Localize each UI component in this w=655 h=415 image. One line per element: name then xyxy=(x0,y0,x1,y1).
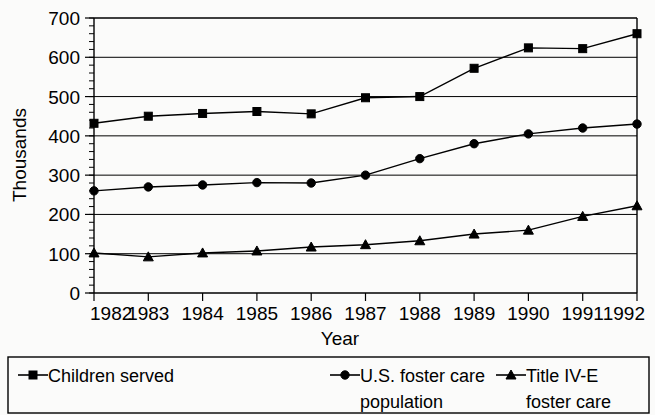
y-axis-tick-label: 600 xyxy=(48,47,80,68)
data-point xyxy=(633,30,641,38)
data-point xyxy=(144,112,152,120)
data-point xyxy=(144,183,152,191)
legend-label-line2: foster care xyxy=(526,392,611,412)
legend-marker-circle-icon xyxy=(341,371,349,379)
x-axis-tick-label: 1989 xyxy=(453,303,495,324)
x-axis-tick-label: 1984 xyxy=(181,303,224,324)
series-line xyxy=(94,34,637,124)
y-axis-tick-label: 100 xyxy=(48,244,80,265)
series-3 xyxy=(89,201,642,261)
data-point xyxy=(89,248,99,257)
x-axis-tick-label: 1990 xyxy=(507,303,549,324)
gridlines xyxy=(94,57,637,253)
y-axis-title: Thousands xyxy=(9,108,30,202)
x-axis-tick-label: 1982 xyxy=(90,303,132,324)
data-point xyxy=(198,181,206,189)
data-point xyxy=(470,140,478,148)
data-point xyxy=(199,109,207,117)
data-point xyxy=(633,120,641,128)
legend-label: Children served xyxy=(48,366,174,386)
y-axis-tick-label: 300 xyxy=(48,165,80,186)
y-axis-tick-label: 0 xyxy=(69,283,80,304)
series-2 xyxy=(90,120,641,195)
legend-entry-3[interactable]: Title IV-Efoster care xyxy=(496,366,611,412)
data-point xyxy=(307,110,315,118)
data-point xyxy=(90,119,98,127)
y-axis-ticks: 0100200300400500600700 xyxy=(48,8,94,304)
line-chart: Thousands 0100200300400500600700 1982198… xyxy=(0,0,655,415)
series-line xyxy=(94,206,637,257)
data-point xyxy=(470,64,478,72)
chart-figure: Thousands 0100200300400500600700 1982198… xyxy=(0,0,655,415)
legend-entry-2[interactable]: U.S. foster carepopulation xyxy=(330,366,485,412)
legend-entry-1[interactable]: Children served xyxy=(18,366,174,386)
x-axis-tick-label: 1988 xyxy=(399,303,441,324)
data-point xyxy=(524,130,532,138)
legend-marker-square-icon xyxy=(29,371,37,379)
x-axis-title: Year xyxy=(321,328,360,349)
x-axis-tick-label: 1985 xyxy=(236,303,278,324)
data-point xyxy=(524,44,532,52)
data-point xyxy=(579,45,587,53)
data-point xyxy=(416,93,424,101)
y-axis-tick-label: 500 xyxy=(48,87,80,108)
x-axis-tick-label: 1987 xyxy=(344,303,386,324)
y-axis-tick-label: 200 xyxy=(48,204,80,225)
x-axis-tick-label: 1992 xyxy=(603,303,645,324)
data-point xyxy=(416,154,424,162)
legend-entries: Children servedU.S. foster carepopulatio… xyxy=(18,366,611,412)
legend-label: U.S. foster care xyxy=(360,366,485,386)
data-point xyxy=(362,94,370,102)
series-line xyxy=(94,124,637,191)
x-axis-ticks: 1982198319841985198619871988198919901991… xyxy=(90,293,645,324)
y-axis-tick-label: 400 xyxy=(48,126,80,147)
legend-label-line2: population xyxy=(360,392,443,412)
x-axis-tick-label: 1986 xyxy=(290,303,332,324)
x-axis-tick-label: 1991 xyxy=(562,303,604,324)
series-1 xyxy=(90,30,641,128)
x-axis-tick-label: 1983 xyxy=(127,303,169,324)
data-point xyxy=(307,179,315,187)
y-axis-tick-label: 700 xyxy=(48,8,80,29)
legend-label: Title IV-E xyxy=(526,366,598,386)
data-point xyxy=(253,108,261,116)
data-point xyxy=(253,178,261,186)
data-point xyxy=(579,124,587,132)
series-group xyxy=(89,30,642,261)
data-point xyxy=(361,171,369,179)
data-point xyxy=(90,187,98,195)
data-point xyxy=(632,201,642,210)
